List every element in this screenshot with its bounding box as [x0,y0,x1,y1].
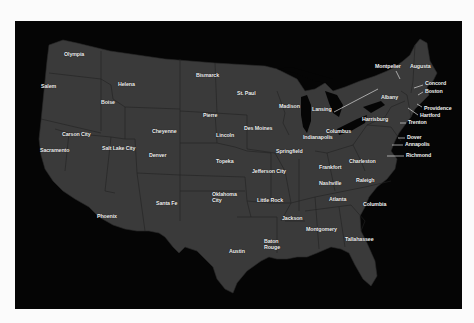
capital-label-denver: Denver [149,152,166,158]
capital-label-salt-lake-city: Salt Lake City [102,145,135,151]
capital-label-topeka: Topeka [216,158,234,164]
capital-label-trenton: Trenton [408,119,427,125]
capital-label-annapolis: Annapolis [405,141,430,147]
capital-label-springfield: Springfield [276,148,303,154]
capital-label-madison: Madison [279,103,300,109]
capital-label-lansing: Lansing [312,106,332,112]
capital-label-columbia: Columbia [363,201,386,207]
capital-label-albany: Albany [381,94,398,100]
capital-label-cheyenne: Cheyenne [152,128,177,134]
capital-label-olympia: Olympia [64,51,84,57]
capital-label-sacramento: Sacramento [40,147,69,153]
capital-label-jackson: Jackson [282,215,303,221]
capital-label-baton-rouge: Baton Rouge [264,238,284,250]
capital-label-bismarck: Bismarck [196,72,219,78]
capital-label-boise: Boise [101,99,115,105]
capital-label-oklahoma-city: Oklahoma City [212,191,240,203]
us-landmass [39,39,437,293]
capital-label-raleigh: Raleigh [356,177,374,183]
map-panel: Olympia Salem Helena Boise Bismarck St. … [15,21,462,309]
capital-label-salem: Salem [41,83,56,89]
capital-label-austin: Austin [229,248,245,254]
capital-label-atlanta: Atlanta [329,196,346,202]
capital-label-santa-fe: Santa Fe [156,200,177,206]
capital-label-providence: Providence [424,105,452,111]
capital-label-boston: Boston [425,88,443,94]
capital-label-concord: Concord [425,80,446,86]
capital-label-harrisburg: Harrisburg [362,116,388,122]
capital-label-indianapolis: Indianapolis [303,134,333,140]
capital-label-jefferson-city: Jefferson City [252,168,286,174]
capital-label-des-moines: Des Moines [244,125,272,131]
capital-label-phoenix: Phoenix [97,213,117,219]
capital-label-little-rock: Little Rock [257,197,283,203]
capital-label-helena: Helena [118,81,135,87]
capital-label-richmond: Richmond [406,152,431,158]
capital-label-carson-city: Carson City [62,131,91,137]
capital-label-montgomery: Montgomery [306,226,337,232]
capital-label-montpelier: Montpelier [375,63,401,69]
capital-label-tallahassee: Tallahassee [345,236,374,242]
capital-label-augusta: Augusta [410,63,431,69]
capital-label-pierre: Pierre [203,112,217,118]
capital-label-dover: Dover [407,134,422,140]
capital-label-frankfort: Frankfort [319,164,341,170]
capital-label-charleston: Charleston [349,158,376,164]
capital-label-hartford: Hartford [420,112,440,118]
capital-label-nashville: Nashville [319,180,341,186]
capital-label-st-paul: St. Paul [237,90,256,96]
capital-label-lincoln: Lincoln [216,132,234,138]
